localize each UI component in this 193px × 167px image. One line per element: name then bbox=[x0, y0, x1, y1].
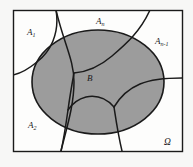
venn-partition-diagram: A1 A2 An An-1 B Ω bbox=[0, 0, 193, 167]
figure-root: A1 A2 An An-1 B Ω bbox=[0, 0, 193, 167]
label-a2-sub: 2 bbox=[34, 125, 37, 131]
label-an-sub: n bbox=[102, 21, 105, 27]
label-omega: Ω bbox=[164, 137, 171, 147]
label-an-minus-1-sub: n-1 bbox=[161, 41, 169, 47]
label-b-base: B bbox=[87, 73, 93, 83]
label-b: B bbox=[87, 73, 93, 83]
label-a1-sub: 1 bbox=[33, 32, 36, 38]
